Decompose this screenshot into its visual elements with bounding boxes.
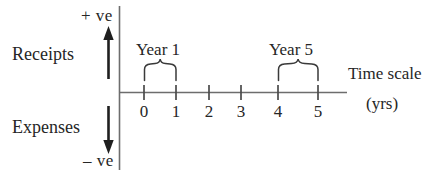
time-scale-title: Time scale: [348, 65, 422, 82]
expenses-label: Expenses: [12, 118, 80, 136]
tick-label-1: 1: [165, 103, 187, 120]
cash-flow-diagram: + ve – ve Receipts Expenses Year 1 Year …: [0, 0, 435, 176]
year-1-label: Year 1: [136, 41, 180, 58]
tick-label-5: 5: [307, 103, 329, 120]
up-arrow-icon: [103, 26, 113, 79]
receipts-label: Receipts: [12, 45, 74, 63]
negative-sign-label: – ve: [83, 152, 114, 169]
year-1-brace: [145, 59, 177, 81]
year-5-brace: [279, 59, 319, 81]
year-5-label: Year 5: [269, 41, 313, 58]
down-arrow-icon: [103, 106, 113, 154]
diagram-canvas: [0, 0, 435, 176]
positive-sign-label: + ve: [81, 7, 113, 24]
time-scale-units: (yrs): [366, 95, 398, 112]
tick-label-3: 3: [230, 103, 252, 120]
tick-label-2: 2: [198, 103, 220, 120]
tick-label-0: 0: [133, 103, 155, 120]
tick-label-4: 4: [267, 103, 289, 120]
